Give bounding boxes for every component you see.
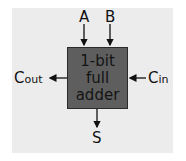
input-label-cin: Cin [148,71,169,86]
cout-main: C [14,69,24,87]
input-label-b: B [105,10,115,25]
full-adder-block: 1-bit full adder [67,47,128,109]
output-label-s: S [92,131,102,146]
block-line-1: 1-bit [80,53,115,70]
cout-sub: out [24,73,42,86]
output-label-cout: Cout [14,71,43,86]
input-label-a: A [79,10,89,25]
cin-sub: in [158,73,168,86]
cin-main: C [148,69,158,87]
block-line-3: adder [76,87,120,104]
block-line-2: full [86,70,109,87]
